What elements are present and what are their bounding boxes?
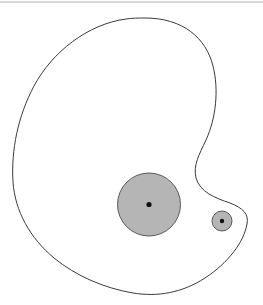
region-diagram-svg [0, 0, 263, 305]
figure-canvas [0, 0, 263, 305]
region-outline-path [13, 18, 248, 294]
small-disk-group [212, 211, 232, 231]
large-disk-center-dot [146, 202, 151, 207]
small-disk-center-dot [220, 219, 224, 223]
large-disk-group [118, 173, 181, 236]
